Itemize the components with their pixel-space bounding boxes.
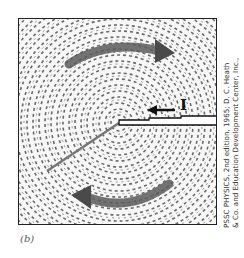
iron-filings-photo [19, 19, 217, 225]
photo-frame [18, 18, 217, 225]
wire [119, 116, 217, 125]
image-credit: PSSC PHYSICS, 2nd edition, 1965; D. C. H… [222, 18, 240, 228]
field-arrow-lower-head [71, 185, 91, 209]
current-arrow-head [147, 105, 157, 115]
current-label: I [180, 96, 187, 114]
figure: I (b) PSSC PHYSICS, 2nd edition, 1965; D… [0, 0, 244, 258]
panel-label: (b) [20, 233, 34, 244]
field-arrow-lower [87, 184, 169, 203]
credit-line-2: & Co. and Education Development Center, … [231, 18, 240, 228]
credit-line-1: PSSC PHYSICS, 2nd edition, 1965; D. C. H… [222, 18, 231, 228]
